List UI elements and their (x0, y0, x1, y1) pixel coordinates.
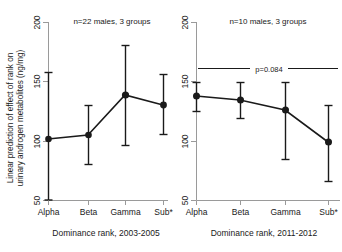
right-x-label-sub: Sub* (319, 207, 338, 217)
left-errorbar-gamma (122, 45, 130, 146)
left-x-label-alpha: Alpha (38, 207, 60, 217)
right-y-tick-label-50: 50 (180, 196, 190, 206)
right-x-label-gamma: Gamma (270, 207, 301, 217)
left-y-ticks (43, 23, 49, 201)
left-x-label-gamma: Gamma (110, 207, 141, 217)
left-errorbar-sub (160, 74, 168, 135)
left-data-point-alpha (45, 136, 52, 143)
right-series-line (196, 96, 328, 142)
right-y-tick-label-100: 100 (180, 134, 190, 148)
left-data-point-gamma (122, 91, 129, 98)
left-y-tick-label-150: 150 (32, 74, 42, 88)
y-axis-title-line2: urinary androgen metabolites (ng/mg) (16, 49, 25, 186)
right-y-tick-label-200: 200 (180, 15, 190, 29)
left-panel: 200 150 100 50 Linear prediction of effe… (6, 15, 173, 238)
right-x-axis-title: Dominance rank, 2011-2012 (211, 228, 318, 238)
left-y-tick-label-50: 50 (32, 196, 42, 206)
right-x-label-beta: Beta (232, 207, 250, 217)
right-data-point-alpha (193, 93, 200, 100)
right-panel: 200 150 100 50 n=10 males, 3 groups p=0.… (180, 15, 340, 238)
right-data-point-sub (325, 139, 332, 146)
pvalue-label: p=0.084 (255, 65, 282, 74)
left-series-line (48, 95, 163, 139)
right-errorbar-sub (325, 105, 333, 182)
left-x-axis-title: Dominance rank, 2003-2005 (52, 228, 160, 238)
left-y-tick-label-100: 100 (32, 134, 42, 148)
left-panel-note: n=22 males, 3 groups (73, 17, 150, 26)
left-errorbar-alpha (45, 72, 53, 200)
right-panel-note: n=10 males, 3 groups (229, 17, 306, 26)
left-errorbar-beta (85, 105, 93, 165)
right-errorbar-alpha (193, 82, 201, 112)
right-errorbar-gamma (282, 82, 290, 160)
figure-container: 200 150 100 50 Linear prediction of effe… (0, 0, 342, 252)
right-y-tick-label-150: 150 (180, 74, 190, 88)
chart-svg: 200 150 100 50 Linear prediction of effe… (0, 0, 342, 252)
right-data-point-beta (237, 97, 244, 104)
left-data-point-beta (85, 132, 92, 139)
left-y-tick-label-200: 200 (32, 15, 42, 29)
left-x-ticks (49, 201, 164, 206)
y-axis-title-line1: Linear prediction of effect of rank on (6, 52, 15, 183)
right-x-ticks (197, 201, 329, 206)
left-x-label-sub: Sub* (154, 207, 173, 217)
left-x-label-beta: Beta (80, 207, 98, 217)
right-data-point-gamma (282, 107, 289, 114)
right-x-label-alpha: Alpha (186, 207, 208, 217)
right-errorbar-beta (237, 82, 245, 119)
pvalue-bracket: p=0.084 (198, 65, 338, 74)
left-data-point-sub (160, 102, 167, 109)
